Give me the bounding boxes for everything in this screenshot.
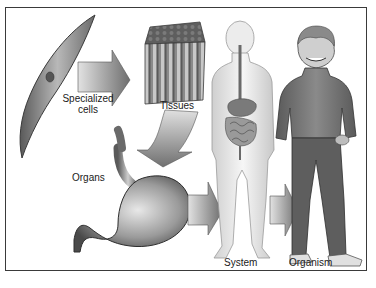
arrow-tissues-to-organs <box>137 110 198 167</box>
organism-boy-illustration <box>276 26 362 266</box>
label-tissues: Tissues <box>160 100 194 111</box>
digestive-system-illustration <box>212 21 274 258</box>
label-system: System <box>224 257 257 268</box>
tissue-illustration <box>145 22 205 104</box>
label-specialized-cells: Specialized cells <box>58 93 118 115</box>
label-specialized-cells-line1: Specialized <box>58 93 118 104</box>
label-specialized-cells-line2: cells <box>58 104 118 115</box>
label-organism: Organism <box>289 257 332 268</box>
label-organs: Organs <box>72 172 105 183</box>
arrow-organs-to-system <box>188 182 222 235</box>
diagram-illustration <box>0 0 376 288</box>
